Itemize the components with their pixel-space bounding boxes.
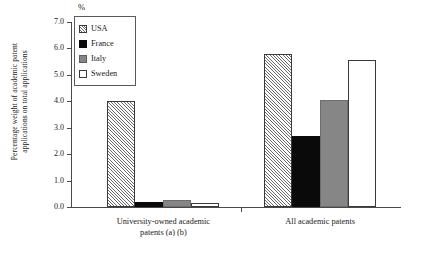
legend-swatch-italy [79,55,87,63]
legend-label-sweden: Sweden [91,69,117,78]
y-axis-unit-label: % [78,2,85,12]
bar-italy-group1 [163,200,191,207]
y-tick-4.0 [67,101,71,102]
y-axis-title: Percentage weight of academic patent app… [10,0,29,217]
bar-usa-group2 [264,54,292,207]
legend-item-sweden: Sweden [79,66,130,81]
y-tick-label-0.0: 0.0 [38,203,64,211]
legend-item-italy: Italy [79,51,130,66]
y-tick-label-7.0: 7.0 [38,18,64,26]
bar-usa-group1 [107,101,135,207]
bar-france-group1 [135,202,163,207]
x-axis-label-group1: University-owned academic patents (a) (b… [93,216,233,238]
legend-item-usa: USA [79,21,130,36]
y-tick-0.0 [67,207,71,208]
y-tick-label-2.0: 2.0 [38,150,64,158]
y-tick-label-3.0: 3.0 [38,124,64,132]
legend-label-usa: USA [91,24,108,33]
y-tick-5.0 [67,75,71,76]
y-tick-label-5.0: 5.0 [38,71,64,79]
x-axis-label-group2: All academic patents [250,216,390,227]
y-tick-7.0 [67,22,71,23]
y-tick-3.0 [67,128,71,129]
legend-swatch-usa [79,25,87,33]
x-tick-group-divider [241,207,242,212]
y-tick-1.0 [67,181,71,182]
y-tick-6.0 [67,48,71,49]
bar-sweden-group1 [191,203,219,207]
y-axis-line [71,22,72,207]
chart-legend: USA France Italy Sweden [74,16,136,86]
x-axis-line [71,207,401,208]
bar-sweden-group2 [348,60,376,207]
bar-italy-group2 [320,100,348,207]
legend-label-france: France [91,39,114,48]
legend-swatch-sweden [79,70,87,78]
bar-france-group2 [292,136,320,207]
bar-chart: Percentage weight of academic patent app… [0,0,423,261]
legend-label-italy: Italy [91,54,106,63]
y-tick-label-1.0: 1.0 [38,177,64,185]
legend-item-france: France [79,36,130,51]
y-tick-label-4.0: 4.0 [38,97,64,105]
y-tick-label-6.0: 6.0 [38,44,64,52]
y-tick-2.0 [67,154,71,155]
legend-swatch-france [79,40,87,48]
